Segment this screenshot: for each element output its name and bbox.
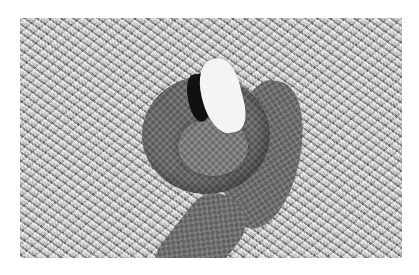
photo-caption (20, 263, 402, 273)
snake-photo (20, 18, 402, 258)
